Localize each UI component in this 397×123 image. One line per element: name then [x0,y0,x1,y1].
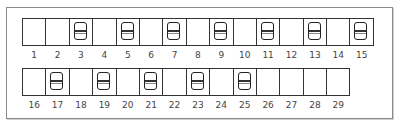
slot-number-label: 18 [70,100,92,110]
switch-lever-shadow [262,33,273,34]
slot-cell: 6 [140,18,163,46]
slot-number-label: 15 [350,50,372,60]
slot-number-label: 14 [327,50,349,60]
slot-cell: 18 [70,68,93,96]
slot-cell: 7 [163,18,186,46]
slot-cell: 24 [210,68,233,96]
slot-cell: 14 [327,18,350,46]
slot-number-label: 1 [23,50,45,60]
slot-cell: 28 [304,68,327,96]
switch-lever-shadow [122,33,133,34]
slot-cell: 9 [210,18,233,46]
slot-number-label: 11 [257,50,279,60]
slot-number-label: 22 [163,100,185,110]
switch-icon [191,72,204,90]
switch-lever-shadow [309,33,320,34]
switch-icon [214,22,227,40]
slot-cell: 1 [23,18,46,46]
slot-number-label: 7 [163,50,185,60]
slot-number-label: 27 [280,100,302,110]
slot-cell: 10 [234,18,257,46]
switch-icon [167,22,180,40]
slot-number-label: 24 [210,100,232,110]
switch-lever-shadow [355,33,366,34]
slot-number-label: 25 [234,100,256,110]
slot-cell: 4 [93,18,116,46]
slot-number-label: 17 [46,100,68,110]
slot-cell: 12 [280,18,303,46]
switch-icon [121,22,134,40]
slot-number-label: 8 [187,50,209,60]
slot-cell: 8 [187,18,210,46]
slot-number-label: 9 [210,50,232,60]
slot-number-label: 21 [140,100,162,110]
slot-row-2: 1617181920212223242526272829 [22,68,350,96]
slot-number-label: 29 [327,100,349,110]
slot-number-label: 28 [304,100,326,110]
switch-lever-shadow [239,83,250,84]
slot-cell: 5 [117,18,140,46]
slot-cell: 19 [93,68,116,96]
slot-number-label: 20 [117,100,139,110]
switch-lever-shadow [51,83,62,84]
switch-lever-shadow [168,33,179,34]
slot-cell: 23 [187,68,210,96]
slot-number-label: 4 [93,50,115,60]
slot-number-label: 13 [304,50,326,60]
switch-icon [50,72,63,90]
slot-cell: 22 [163,68,186,96]
slot-cell: 20 [117,68,140,96]
slot-row-1: 123456789101112131415 [22,18,374,46]
slot-number-label: 5 [117,50,139,60]
slot-cell: 13 [304,18,327,46]
slot-number-label: 23 [187,100,209,110]
slot-number-label: 3 [70,50,92,60]
slot-cell: 17 [46,68,69,96]
slot-cell: 2 [46,18,69,46]
slot-number-label: 6 [140,50,162,60]
slot-cell: 16 [23,68,46,96]
slot-cell: 29 [327,68,350,96]
switch-icon [238,72,251,90]
switch-icon [144,72,157,90]
switch-lever-shadow [98,83,109,84]
slot-number-label: 12 [280,50,302,60]
slot-number-label: 2 [46,50,68,60]
switch-lever-shadow [75,33,86,34]
switch-icon [261,22,274,40]
slot-number-label: 26 [257,100,279,110]
slot-cell: 27 [280,68,303,96]
switch-lever-shadow [215,33,226,34]
switch-lever-shadow [145,83,156,84]
switch-icon [354,22,367,40]
switch-lever-shadow [192,83,203,84]
switch-icon [74,22,87,40]
switch-icon [308,22,321,40]
slot-cell: 21 [140,68,163,96]
switch-icon [97,72,110,90]
slot-cell: 25 [234,68,257,96]
slot-cell: 11 [257,18,280,46]
slot-number-label: 10 [234,50,256,60]
slot-cell: 3 [70,18,93,46]
slot-number-label: 16 [23,100,45,110]
slot-cell: 15 [350,18,373,46]
slot-cell: 26 [257,68,280,96]
slot-number-label: 19 [93,100,115,110]
